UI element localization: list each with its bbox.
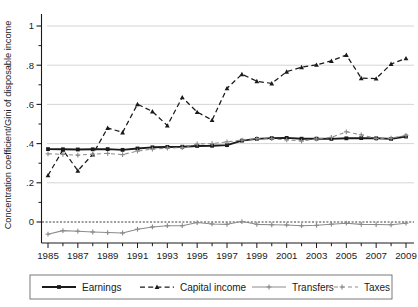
data-point-marker xyxy=(180,95,185,99)
data-point-marker xyxy=(180,223,185,228)
x-tick-label: 1987 xyxy=(67,250,89,261)
data-point-marker xyxy=(105,151,110,156)
x-tick-label: 2007 xyxy=(365,250,387,261)
y-tick-labels: 0.2.4.6.81 xyxy=(26,20,34,227)
data-point-marker xyxy=(225,222,230,227)
data-point-marker xyxy=(254,222,259,227)
data-point-marker xyxy=(314,223,319,228)
data-point-marker xyxy=(404,221,409,226)
x-axis xyxy=(42,243,415,248)
data-point-marker xyxy=(135,227,140,232)
y-tick-label: 1 xyxy=(29,20,34,31)
chart-canvas: 0.2.4.6.81 19851987198919911993199519971… xyxy=(0,0,418,307)
data-point-marker xyxy=(46,232,51,237)
data-point-marker xyxy=(269,222,274,227)
legend-label: Taxes xyxy=(364,282,390,293)
x-tick-label: 1989 xyxy=(97,250,119,261)
data-point-marker xyxy=(210,118,215,122)
data-point-marker xyxy=(359,222,364,227)
data-point-marker xyxy=(210,222,215,227)
x-tick-label: 2005 xyxy=(336,250,358,261)
y-axis xyxy=(37,14,42,243)
data-point-marker xyxy=(75,229,80,234)
data-point-marker xyxy=(284,223,289,228)
x-tick-label: 1995 xyxy=(186,250,208,261)
legend-label: Capital income xyxy=(180,282,247,293)
data-point-marker xyxy=(105,230,110,235)
x-tick-label: 1991 xyxy=(127,250,149,261)
data-point-marker xyxy=(344,53,349,57)
y-tick-label: .4 xyxy=(26,138,34,149)
data-point-marker xyxy=(195,220,200,225)
y-tick-label: .8 xyxy=(26,60,34,71)
series-line xyxy=(48,55,406,175)
data-point-marker xyxy=(150,225,155,230)
data-point-marker xyxy=(374,222,379,227)
data-point-marker xyxy=(75,153,80,158)
x-tick-label: 1997 xyxy=(216,250,238,261)
data-point-marker xyxy=(120,152,125,157)
series-lines xyxy=(46,53,409,237)
data-point-marker xyxy=(344,221,349,226)
data-point-marker xyxy=(46,151,51,156)
data-point-marker xyxy=(329,222,334,227)
data-point-marker xyxy=(90,230,95,235)
data-point-marker xyxy=(240,72,245,76)
x-tick-labels: 1985198719891991199319951997199920012003… xyxy=(37,250,417,261)
data-point-marker xyxy=(105,126,110,130)
data-point-marker xyxy=(76,148,80,152)
grid-lines xyxy=(47,26,414,183)
x-tick-label: 1999 xyxy=(246,250,268,261)
x-tick-label: 2009 xyxy=(395,250,417,261)
data-point-marker xyxy=(165,223,170,228)
data-point-marker xyxy=(57,285,61,289)
x-tick-label: 1985 xyxy=(37,250,59,261)
data-point-marker xyxy=(240,219,245,224)
data-point-marker xyxy=(344,129,349,134)
data-point-marker xyxy=(344,136,348,140)
data-point-marker xyxy=(404,56,409,60)
y-tick-label: .6 xyxy=(26,99,34,110)
series-capital-income xyxy=(46,53,409,178)
chart-legend: EarningsCapital incomeTransfersTaxes xyxy=(30,275,392,299)
data-point-marker xyxy=(46,147,50,151)
x-tick-label: 2001 xyxy=(276,250,298,261)
x-tick-label: 1993 xyxy=(157,250,179,261)
data-point-marker xyxy=(389,222,394,227)
y-tick-label: 0 xyxy=(29,216,34,227)
y-tick-label: .2 xyxy=(26,177,34,188)
data-point-marker xyxy=(106,147,110,151)
data-point-marker xyxy=(91,147,95,151)
data-point-marker xyxy=(120,231,125,236)
chart-figure: Concentration coefficient/Gini of dispos… xyxy=(0,0,418,307)
data-point-marker xyxy=(121,148,125,152)
x-tick-label: 2003 xyxy=(306,250,328,261)
data-point-marker xyxy=(120,130,125,134)
data-point-marker xyxy=(299,223,304,228)
data-point-marker xyxy=(150,109,155,113)
legend-label: Earnings xyxy=(82,282,121,293)
data-point-marker xyxy=(61,228,66,233)
